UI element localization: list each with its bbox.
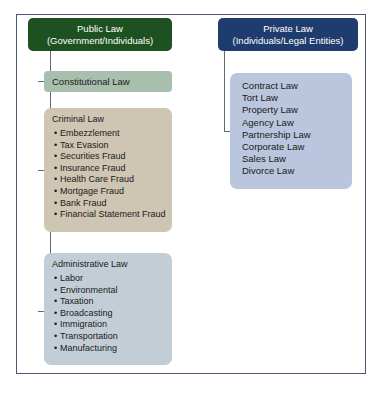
administrative-law-title: Administrative Law — [44, 253, 172, 270]
private-law-header-line2: (Individuals/Legal Entities) — [233, 35, 344, 47]
criminal-law-title: Criminal Law — [44, 108, 172, 125]
criminal-law-item: Embezzlement — [54, 128, 172, 140]
private-law-trunk-line — [224, 51, 225, 132]
private-law-item: Contract Law — [242, 80, 352, 92]
private-law-header-line1: Private Law — [263, 23, 313, 35]
private-law-list: Contract LawTort LawProperty LawAgency L… — [230, 73, 352, 178]
private-law-item: Divorce Law — [242, 165, 352, 177]
administrative-law-item: Transportation — [54, 331, 172, 343]
constitutional-law-title: Constitutional Law — [44, 71, 172, 87]
criminal-law-item: Mortgage Fraud — [54, 186, 172, 198]
criminal-law-list: EmbezzlementTax EvasionSecurities FraudI… — [44, 125, 172, 221]
private-law-header: Private Law (Individuals/Legal Entities) — [218, 18, 358, 51]
administrative-law-list: LaborEnvironmentalTaxationBroadcastingIm… — [44, 270, 172, 354]
private-law-item: Partnership Law — [242, 129, 352, 141]
administrative-law-item: Broadcasting — [54, 308, 172, 320]
private-law-item: Sales Law — [242, 153, 352, 165]
criminal-law-item: Insurance Fraud — [54, 163, 172, 175]
administrative-law-box: Administrative Law LaborEnvironmentalTax… — [44, 253, 172, 365]
criminal-law-item: Financial Statement Fraud — [54, 209, 172, 221]
private-law-item: Corporate Law — [242, 141, 352, 153]
criminal-law-item: Securities Fraud — [54, 151, 172, 163]
public-law-header-line2: (Government/Individuals) — [47, 35, 153, 47]
private-law-item: Tort Law — [242, 92, 352, 104]
private-law-item: Agency Law — [242, 117, 352, 129]
administrative-law-item: Labor — [54, 273, 172, 285]
administrative-law-item: Environmental — [54, 285, 172, 297]
administrative-law-item: Taxation — [54, 296, 172, 308]
criminal-law-box: Criminal Law EmbezzlementTax EvasionSecu… — [44, 108, 172, 232]
administrative-law-item: Manufacturing — [54, 343, 172, 355]
administrative-law-item: Immigration — [54, 319, 172, 331]
private-law-box: Contract LawTort LawProperty LawAgency L… — [230, 73, 352, 189]
law-classification-diagram: Public Law (Government/Individuals) Priv… — [0, 0, 381, 393]
constitutional-law-box: Constitutional Law — [44, 71, 172, 92]
criminal-law-item: Bank Fraud — [54, 198, 172, 210]
public-law-header: Public Law (Government/Individuals) — [28, 18, 172, 51]
public-law-header-line1: Public Law — [77, 23, 123, 35]
private-law-item: Property Law — [242, 104, 352, 116]
criminal-law-item: Tax Evasion — [54, 140, 172, 152]
criminal-law-item: Health Care Fraud — [54, 174, 172, 186]
